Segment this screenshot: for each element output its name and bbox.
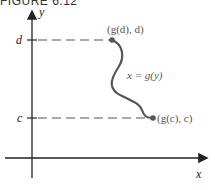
annotation-top-point: (g(d), d) <box>107 23 144 36</box>
curve-label: x = g(y) <box>126 69 163 82</box>
annotation-bottom-point: (g(c), c) <box>157 112 193 125</box>
tick-label-c: c <box>17 111 23 125</box>
x-axis-label: x <box>195 167 202 181</box>
y-axis-label: y <box>38 5 45 19</box>
tick-label-d: d <box>16 33 23 47</box>
